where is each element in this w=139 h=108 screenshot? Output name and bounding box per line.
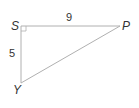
vertex-label-y: Y <box>13 83 22 97</box>
side-py <box>21 26 120 83</box>
triangle-diagram: S P Y 9 5 <box>0 0 139 108</box>
triangle-edges <box>21 26 120 83</box>
vertex-label-s: S <box>11 19 19 33</box>
side-length-sp: 9 <box>66 11 72 23</box>
vertex-label-p: P <box>122 19 130 33</box>
side-length-sy: 5 <box>9 47 15 59</box>
right-angle-marker-icon <box>21 26 26 31</box>
